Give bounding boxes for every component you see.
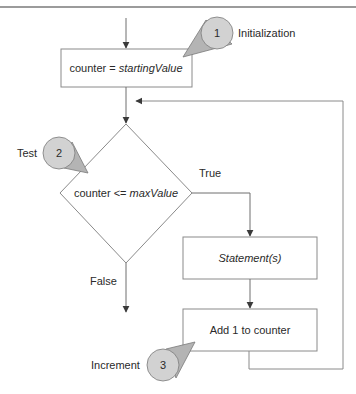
statement-box-label: Statement(s): [219, 252, 282, 264]
init-box-var: startingValue: [119, 62, 183, 74]
test-diamond-prefix: counter <=: [74, 187, 130, 199]
increment-box-label: Add 1 to counter: [210, 324, 291, 336]
callout-3-number: 3: [160, 359, 166, 371]
callout-2-label: Test: [17, 147, 37, 159]
callout-3-label: Increment: [91, 359, 140, 371]
callout-1-label: Initialization: [238, 27, 295, 39]
init-box-prefix: counter =: [69, 62, 118, 74]
callout-1-number: 1: [214, 27, 220, 39]
callout-2: [43, 137, 88, 173]
true-branch-arrow: [192, 193, 250, 236]
callout-1: [183, 17, 233, 57]
test-diamond-label: counter <= maxValue: [74, 187, 178, 199]
true-label: True: [199, 167, 221, 179]
init-box-label: counter = startingValue: [69, 62, 182, 74]
test-diamond-var: maxValue: [130, 187, 179, 199]
callout-2-number: 2: [56, 147, 62, 159]
false-label: False: [90, 275, 117, 287]
callout-3: [147, 342, 195, 381]
